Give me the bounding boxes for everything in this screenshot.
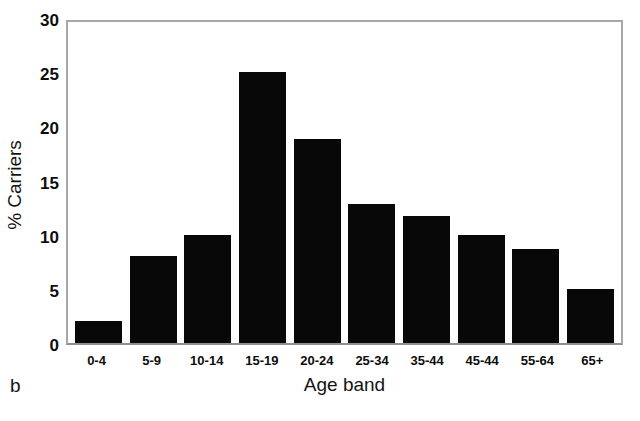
x-axis-tick-label: 55-64 — [510, 352, 565, 372]
x-axis-tick-label: 15-19 — [234, 352, 289, 372]
bar-slot — [454, 22, 509, 343]
bar-slot — [509, 22, 564, 343]
plot-area — [66, 20, 623, 345]
bar — [75, 321, 122, 343]
y-axis-tick-label: 25 — [10, 66, 66, 83]
bar-slot — [126, 22, 181, 343]
y-axis-tick-labels: 302520151050 — [10, 0, 66, 421]
x-axis-tick-label: 35-44 — [400, 352, 455, 372]
bar-slot — [290, 22, 345, 343]
x-axis-tick-label: 45-44 — [455, 352, 510, 372]
x-axis-tick-labels: 0-45-910-1415-1920-2425-3435-4445-4455-6… — [66, 352, 623, 372]
bar-slot — [180, 22, 235, 343]
panel-label: b — [10, 376, 21, 395]
y-axis-tick-label: 0 — [10, 337, 66, 354]
x-axis-tick-label: 65+ — [565, 352, 620, 372]
bar-slot — [399, 22, 454, 343]
bar-slot — [345, 22, 400, 343]
bar — [348, 204, 395, 343]
x-axis-tick-label: 25-34 — [344, 352, 399, 372]
y-axis-tick-label: 20 — [10, 120, 66, 137]
x-axis-title: Age band — [66, 374, 623, 396]
bar — [184, 235, 231, 343]
bar-chart-figure: % Carriers 302520151050 0-45-910-1415-19… — [0, 0, 640, 421]
bar — [403, 216, 450, 343]
bar-slot — [235, 22, 290, 343]
bar-slot — [563, 22, 618, 343]
bar-slot — [71, 22, 126, 343]
x-axis-tick-label: 0-4 — [69, 352, 124, 372]
y-axis-tick-label: 10 — [10, 228, 66, 245]
bar — [458, 235, 505, 343]
y-axis-tick-label: 5 — [10, 282, 66, 299]
bar — [239, 72, 286, 343]
bar — [512, 249, 559, 343]
bar — [567, 289, 614, 343]
bar-series — [68, 22, 621, 343]
bar — [294, 139, 341, 343]
x-axis-tick-label: 20-24 — [289, 352, 344, 372]
x-axis-tick-label: 5-9 — [124, 352, 179, 372]
x-axis-tick-label: 10-14 — [179, 352, 234, 372]
bar — [130, 256, 177, 343]
y-axis-tick-label: 15 — [10, 174, 66, 191]
y-axis-tick-label: 30 — [10, 12, 66, 29]
